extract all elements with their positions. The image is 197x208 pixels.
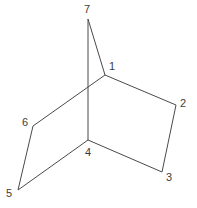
atom-label-2: 2 — [180, 98, 186, 109]
atom-label-7: 7 — [84, 4, 90, 15]
bond-1-2 — [105, 75, 176, 105]
bond-2-3 — [162, 105, 176, 172]
atom-label-4: 4 — [85, 147, 91, 158]
atom-label-1: 1 — [109, 61, 115, 72]
atom-label-3: 3 — [166, 172, 172, 183]
bond-1-6 — [33, 75, 105, 126]
bond-3-4 — [88, 140, 162, 172]
bond-5-4 — [18, 140, 88, 190]
molecule-diagram: 1234567 — [0, 0, 197, 208]
bond-group — [18, 19, 176, 190]
atom-label-6: 6 — [22, 117, 28, 128]
bond-7-1 — [88, 19, 105, 75]
atom-label-5: 5 — [6, 188, 12, 199]
